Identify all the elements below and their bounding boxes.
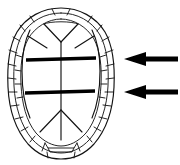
highlighted-seam-lower bbox=[25, 91, 95, 93]
highlighted-seam-upper bbox=[26, 58, 96, 60]
carapace-diagram-svg bbox=[0, 0, 180, 165]
seam-lower-stroke bbox=[25, 91, 95, 93]
seam-upper-stroke bbox=[26, 58, 96, 60]
carapace-figure: Turtle carapace dorsal view with two ind… bbox=[0, 0, 180, 165]
